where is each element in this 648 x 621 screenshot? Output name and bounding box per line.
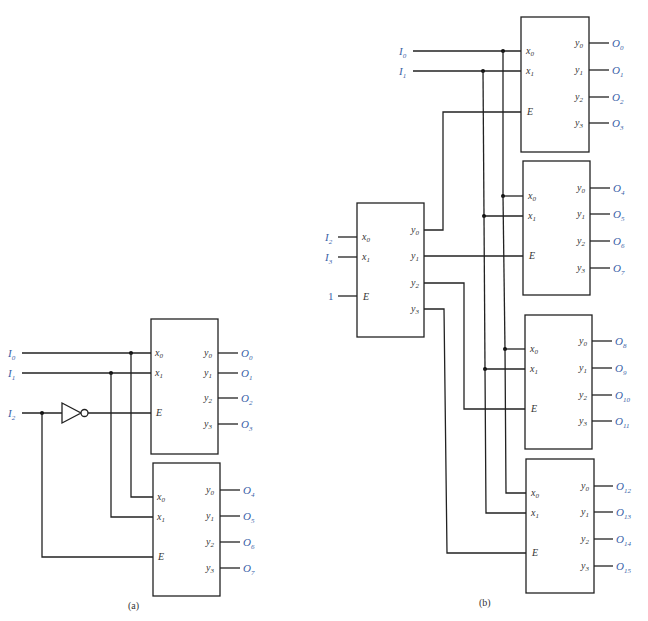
svg-text:O7: O7 [613,262,625,277]
label-a-I0: I0 [7,347,16,362]
svg-text:O14: O14 [616,533,631,548]
svg-text:O7: O7 [243,562,255,577]
svg-text:1: 1 [328,290,334,302]
svg-text:O6: O6 [613,235,625,250]
svg-text:I0: I0 [398,45,407,60]
svg-text:E: E [155,407,162,418]
inverter-gate [62,403,81,423]
caption-a: (a) [128,600,139,612]
svg-text:O2: O2 [241,392,253,407]
svg-text:O5: O5 [243,510,255,525]
decoder-diagram: I0 I1 I2 x0 x1 E y0 y1 y2 y3 O0 O1 O2 O3… [0,0,648,621]
decoder-a2 [153,463,220,596]
label-a-I2: I2 [7,407,16,422]
svg-text:O1: O1 [612,64,623,79]
svg-text:O4: O4 [613,182,625,197]
svg-text:O8: O8 [615,335,627,350]
part-a-circuit [22,319,240,596]
caption-b: (b) [479,597,491,609]
svg-text:O4: O4 [243,484,255,499]
svg-text:E: E [528,250,535,261]
svg-text:O0: O0 [612,37,624,52]
part-b-circuit [338,17,613,593]
svg-text:O1: O1 [241,367,252,382]
svg-text:I1: I1 [398,65,406,80]
svg-text:O5: O5 [613,208,625,223]
svg-text:I3: I3 [324,251,333,266]
svg-text:O10: O10 [615,389,630,404]
svg-text:O6: O6 [243,536,255,551]
svg-text:O2: O2 [612,91,624,106]
svg-text:O9: O9 [615,362,627,377]
svg-text:I2: I2 [324,231,333,246]
label-a-I1: I1 [7,367,15,382]
svg-text:E: E [531,547,538,558]
inverter-bubble [81,410,88,417]
svg-text:O11: O11 [615,415,629,430]
svg-text:O3: O3 [241,418,253,433]
svg-text:E: E [157,551,164,562]
svg-text:E: E [530,403,537,414]
svg-text:O0: O0 [241,347,253,362]
svg-text:O13: O13 [616,506,631,521]
svg-text:E: E [362,291,369,302]
svg-text:O3: O3 [612,117,624,132]
svg-text:O12: O12 [616,480,631,495]
decoder-a1 [151,319,218,454]
svg-text:O15: O15 [616,560,631,575]
svg-text:E: E [526,106,533,117]
